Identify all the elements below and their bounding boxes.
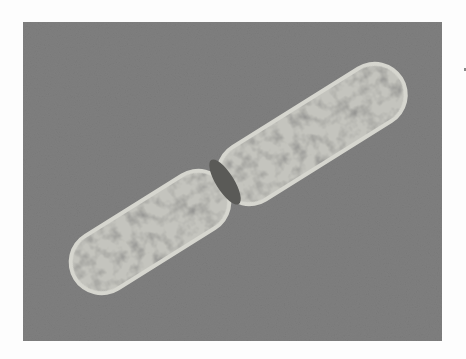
bacterium-illustration: [23, 22, 442, 341]
micrograph-photo: [23, 22, 442, 341]
